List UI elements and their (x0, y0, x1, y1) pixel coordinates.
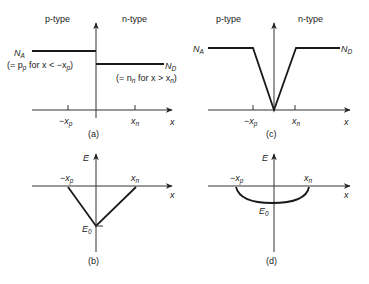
x-axis-label-b: x (169, 190, 175, 200)
field-triangle (68, 187, 136, 226)
na-note: (= pp for x < −xp) (7, 60, 73, 72)
e0-label-d: E0 (259, 206, 269, 217)
nd-label-a: ND (165, 61, 177, 72)
caption-d: (d) (266, 256, 277, 266)
x-axis-label-c: x (343, 117, 349, 127)
p-type-label-a: p-type (45, 14, 70, 24)
caption-c: (c) (266, 129, 277, 139)
tick-xn-d: xn (303, 173, 313, 184)
p-type-label-c: p-type (216, 14, 241, 24)
panel-d: E −xp xn x E0 (d) (208, 153, 350, 266)
x-axis-label-d: x (343, 190, 349, 200)
na-label-c: NA (193, 44, 204, 55)
e-axis-label-b: E (83, 153, 90, 163)
nd-label-c: ND (341, 44, 353, 55)
e-axis-label-d: E (262, 153, 269, 163)
e0-label-b: E0 (82, 224, 92, 235)
panel-c: p-type n-type NA ND −xp xn x (c) (193, 14, 353, 139)
caption-a: (a) (88, 129, 99, 139)
pn-junction-diagram: p-type n-type NA ND (= pp for x < −xp) (… (0, 0, 369, 284)
tick-xn-a: xn (130, 116, 140, 127)
tick-xn-c: xn (291, 116, 301, 127)
caption-b: (b) (88, 256, 99, 266)
n-type-label-a: n-type (122, 14, 147, 24)
n-type-label-c: n-type (298, 14, 323, 24)
panel-b: E −xp xn x E0 (b) (32, 153, 175, 266)
nd-note: (= nn for x > xn) (116, 73, 177, 84)
tick-xn-b: xn (130, 173, 140, 184)
x-axis-label-a: x (169, 117, 175, 127)
tick-neg-xp-b: −xp (60, 173, 74, 185)
tick-neg-xp-c: −xp (244, 116, 258, 128)
tick-neg-xp-d: −xp (230, 173, 244, 185)
panel-a: p-type n-type NA ND (= pp for x < −xp) (… (7, 14, 177, 139)
na-label-a: NA (14, 48, 25, 59)
tick-neg-xp-a: −xp (59, 116, 73, 128)
field-parabola (236, 187, 309, 203)
